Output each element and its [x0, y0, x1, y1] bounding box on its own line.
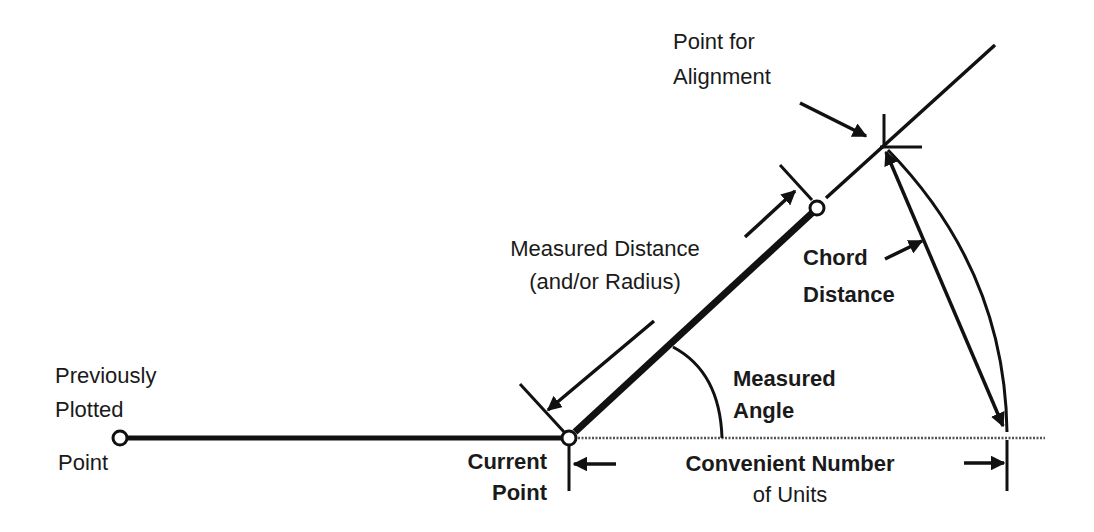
distance-arrow-up: [745, 191, 795, 237]
label-measured-distance-1: Measured Distance: [495, 234, 715, 263]
label-chord-1: Chord: [803, 243, 868, 272]
label-previous-point-2: Plotted: [55, 395, 124, 424]
measured-angle-arc: [673, 347, 722, 438]
label-previous-point-1: Previously: [55, 361, 156, 390]
label-angle-1: Measured: [733, 364, 836, 393]
previous-point-marker: [113, 431, 127, 445]
alignment-pointer-arrow: [800, 103, 866, 136]
label-alignment-2: Alignment: [673, 62, 771, 91]
label-units-1: Convenient Number: [660, 449, 920, 478]
label-current-point-1: Current: [451, 447, 547, 476]
label-chord-2: Distance: [803, 280, 895, 309]
label-angle-2: Angle: [733, 396, 794, 425]
label-current-point-2: Point: [451, 478, 547, 507]
distance-arrow-down: [548, 321, 654, 410]
chord-line: [886, 152, 1003, 426]
distance-tick-end: [780, 165, 812, 200]
chord-pointer-arrow: [885, 241, 922, 259]
diagram-canvas: [0, 0, 1094, 532]
label-units-2: of Units: [660, 480, 920, 509]
distance-tick-start: [520, 384, 565, 433]
label-measured-distance-2: (and/or Radius): [495, 267, 715, 296]
distance-point-marker: [810, 201, 824, 215]
label-alignment-1: Point for: [673, 27, 755, 56]
current-point-marker: [562, 431, 576, 445]
label-previous-point-3: Point: [58, 448, 108, 477]
